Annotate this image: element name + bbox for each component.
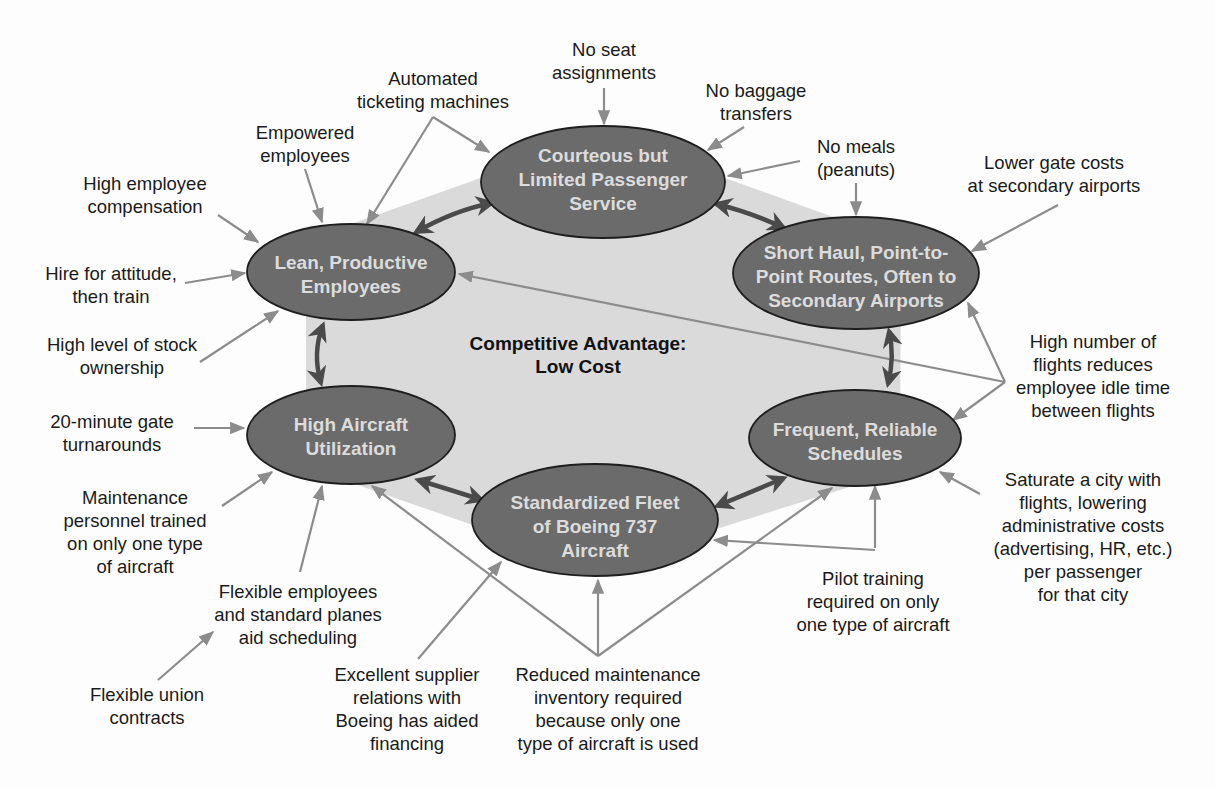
label-high-number-flights: High number offlights reducesemployee id…	[1016, 330, 1170, 422]
label-flexible-union: Flexible unioncontracts	[90, 683, 204, 729]
node-employees-line2: Employees	[301, 276, 401, 297]
diagram-canvas: Competitive Advantage: Low Cost Courteou…	[0, 0, 1215, 787]
node-routes: Short Haul, Point-to- Point Routes, Ofte…	[733, 217, 979, 329]
node-employees-line1: Lean, Productive	[274, 252, 427, 273]
label-empowered: Empoweredemployees	[256, 121, 355, 167]
node-schedules: Frequent, Reliable Schedules	[749, 390, 961, 486]
label-automated-ticketing: Automatedticketing machines	[357, 67, 509, 113]
label-lower-gate-costs: Lower gate costsat secondary airports	[968, 151, 1141, 197]
node-schedules-line1: Frequent, Reliable	[773, 419, 938, 440]
node-utilization-line2: Utilization	[306, 438, 397, 459]
node-routes-line3: Secondary Airports	[768, 290, 944, 311]
node-utilization-line1: High Aircraft	[294, 414, 409, 435]
label-no-baggage: No baggagetransfers	[706, 79, 807, 125]
node-fleet: Standardized Fleet of Boeing 737 Aircraf…	[472, 464, 718, 576]
node-fleet-line3: Aircraft	[561, 540, 629, 561]
node-schedules-line2: Schedules	[807, 443, 902, 464]
node-service-line3: Service	[569, 193, 637, 214]
label-maintenance-personnel: Maintenancepersonnel trainedon only one …	[64, 486, 207, 578]
node-service-line1: Courteous but	[538, 145, 668, 166]
label-compensation: High employeecompensation	[83, 172, 206, 218]
label-saturate-city: Saturate a city withflights, loweringadm…	[994, 468, 1173, 606]
label-supplier-relations: Excellent supplierrelations withBoeing h…	[335, 663, 480, 755]
label-hire-for-attitude: Hire for attitude,then train	[45, 262, 177, 308]
node-service: Courteous but Limited Passenger Service	[481, 126, 725, 238]
node-service-line2: Limited Passenger	[519, 169, 689, 190]
label-gate-turnarounds: 20-minute gateturnarounds	[50, 410, 173, 456]
node-routes-line2: Point Routes, Often to	[756, 266, 957, 287]
center-title-line1: Competitive Advantage:	[470, 333, 687, 354]
label-no-meals: No meals(peanuts)	[817, 135, 895, 181]
label-flexible-employees: Flexible employeesand standard planesaid…	[214, 580, 382, 649]
node-routes-line1: Short Haul, Point-to-	[764, 242, 949, 263]
node-utilization: High Aircraft Utilization	[247, 386, 455, 484]
label-pilot-training: Pilot trainingrequired on onlyone type o…	[796, 567, 949, 636]
node-fleet-line1: Standardized Fleet	[511, 492, 681, 513]
label-reduced-maintenance: Reduced maintenanceinventory requiredbec…	[515, 663, 700, 755]
label-stock-ownership: High level of stockownership	[47, 333, 197, 379]
label-no-seat: No seatassignments	[552, 38, 656, 84]
node-fleet-line2: of Boeing 737	[533, 516, 658, 537]
node-employees: Lean, Productive Employees	[247, 224, 455, 320]
center-title-line2: Low Cost	[535, 356, 621, 377]
